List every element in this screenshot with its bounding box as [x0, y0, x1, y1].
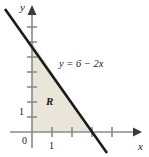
origin-label: 0: [22, 136, 27, 146]
x-axis-label: x: [138, 141, 143, 152]
y-axis-arrowhead: [28, 5, 37, 15]
figure-graph-of-line-and-shaded-region: y x 1 1 0 R y = 6 − 2x: [0, 0, 149, 157]
y-axis-label: y: [20, 2, 25, 13]
y-axis-tick-label-1: 1: [19, 107, 24, 117]
region-label-R: R: [46, 96, 53, 107]
x-axis-tick-label-1: 1: [49, 141, 54, 151]
x-axis-arrowhead: [133, 128, 142, 137]
equation-label: y = 6 − 2x: [59, 59, 104, 70]
chart-canvas: [0, 0, 149, 157]
